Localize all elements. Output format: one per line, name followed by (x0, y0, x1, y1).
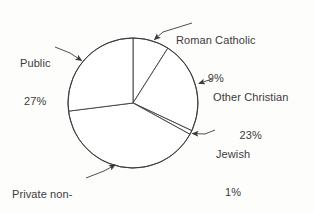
leader-line-jewish (193, 130, 216, 134)
leader-line-public (55, 47, 82, 61)
callout-public: Public 27% (20, 32, 51, 132)
callout-private-non-religious-label-line1: Private non- (12, 188, 73, 201)
callout-roman-catholic-label: Roman Catholic (176, 34, 256, 47)
callout-jewish-label: Jewish (216, 148, 250, 161)
callout-other-christian-label: Other Christian (213, 91, 288, 104)
callout-public-label: Public (20, 57, 51, 70)
callout-public-value: 27% (20, 95, 51, 108)
callout-private-non-religious: Private non- religious 40% (12, 163, 73, 213)
leader-line-private-non-religious (86, 165, 115, 178)
pie-slice-public (68, 38, 133, 111)
callout-jewish: Jewish 1% (216, 123, 250, 213)
pie-chart-figure: Roman Catholic 9% Public 27% Other Chris… (0, 0, 314, 213)
callout-jewish-value: 1% (216, 186, 250, 199)
